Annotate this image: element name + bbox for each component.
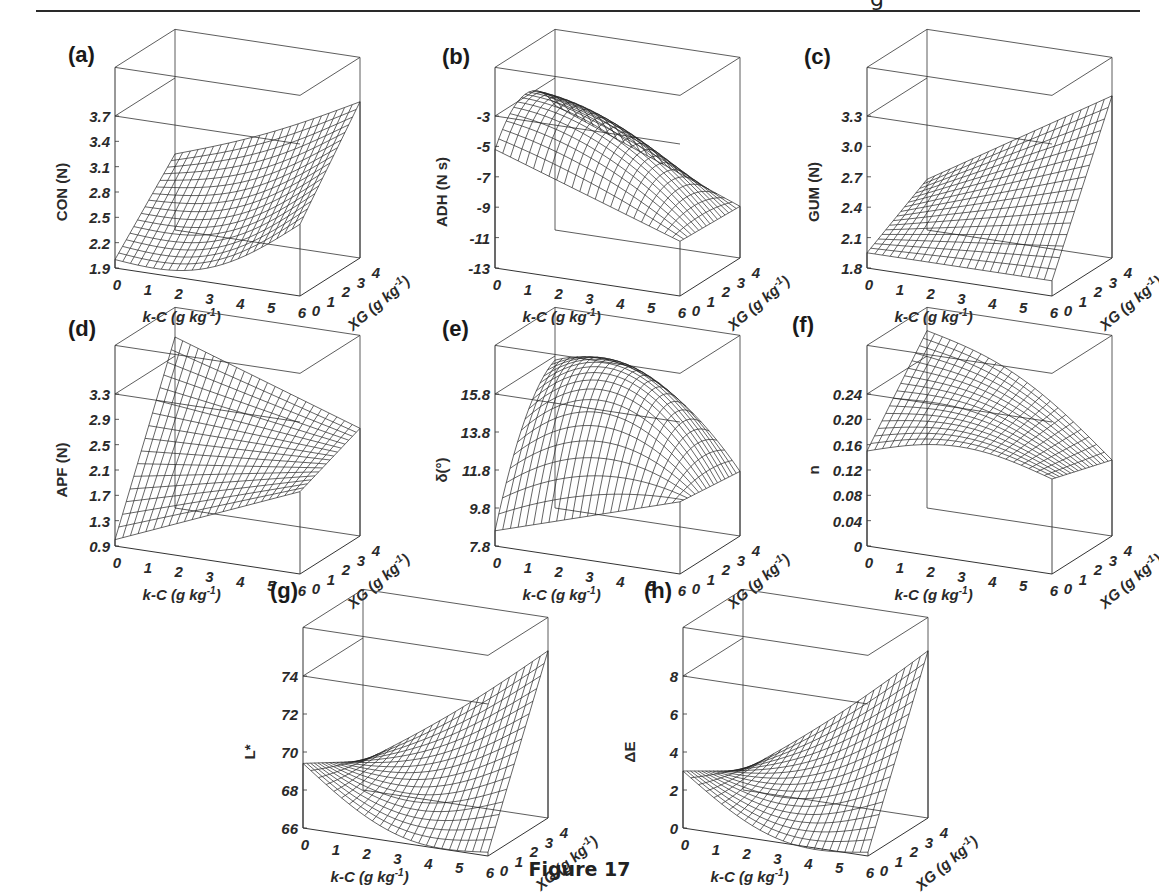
z-tick-label: 3.1 bbox=[89, 159, 110, 176]
x-tick-label: 2 bbox=[173, 285, 183, 302]
surface-plot: 00.040.080.120.160.200.24n0123456k-C (g … bbox=[772, 308, 1152, 598]
chart-panel-h: 02468ΔE0123456k-C (g kg-1)01234XG (g kg-… bbox=[588, 590, 968, 880]
y-tick-label: 4 bbox=[1123, 542, 1133, 559]
z-axis-label: GUM (N) bbox=[805, 162, 822, 222]
z-tick-label: 0.16 bbox=[833, 437, 863, 454]
y-tick-label: 2 bbox=[341, 283, 351, 300]
z-tick-label: 0.08 bbox=[833, 487, 863, 504]
chart-panel-d: 0.91.31.72.12.52.93.3APF (N)0123456k-C (… bbox=[20, 308, 400, 598]
y-tick-label: 3 bbox=[545, 834, 554, 851]
z-tick-label: 0.04 bbox=[833, 513, 863, 530]
z-tick-label: 15.8 bbox=[461, 386, 491, 403]
panel-label: (a) bbox=[68, 42, 95, 68]
z-tick-label: 2.5 bbox=[88, 437, 111, 454]
z-axis-label: APF (N) bbox=[53, 443, 70, 498]
z-tick-label: 3.7 bbox=[89, 108, 111, 125]
header-rule bbox=[36, 10, 1140, 12]
z-tick-label: 0.12 bbox=[833, 462, 863, 479]
y-tick-label: 2 bbox=[721, 283, 731, 300]
chart-panel-b: -13-11-9-7-5-3ADH (N s)0123456k-C (g kg-… bbox=[400, 30, 780, 320]
y-tick-label: 3 bbox=[357, 552, 366, 569]
panel-label: (b) bbox=[442, 44, 470, 70]
y-tick-label: 3 bbox=[1109, 274, 1118, 291]
surface-mesh bbox=[867, 96, 1112, 281]
y-tick-label: 4 bbox=[371, 264, 381, 281]
surface-mesh bbox=[495, 91, 740, 242]
y-tick-label: 4 bbox=[939, 824, 949, 841]
surface-plot: 1.82.12.42.73.03.3GUM (N)0123456k-C (g k… bbox=[772, 30, 1152, 320]
chart-panel-e: 7.89.811.813.815.8δ(°)0123456k-C (g kg-1… bbox=[400, 308, 780, 598]
x-tick-label: 0 bbox=[493, 554, 502, 571]
panel-label: (d) bbox=[68, 316, 96, 342]
x-tick-label: 1 bbox=[144, 281, 152, 298]
y-tick-label: 3 bbox=[1109, 552, 1118, 569]
y-tick-label: 2 bbox=[1093, 561, 1103, 578]
x-tick-label: 2 bbox=[553, 285, 563, 302]
chart-panel-a: 1.92.22.52.83.13.43.7CON (N)0123456k-C (… bbox=[20, 30, 400, 320]
chart-panel-f: 00.040.080.120.160.200.24n0123456k-C (g … bbox=[772, 308, 1152, 598]
x-tick-label: 0 bbox=[113, 554, 122, 571]
z-tick-label: -7 bbox=[477, 169, 491, 186]
x-tick-label: 3 bbox=[957, 568, 966, 585]
x-tick-label: 6 bbox=[1050, 582, 1059, 599]
surface-mesh bbox=[683, 651, 928, 852]
y-tick-label: 1 bbox=[707, 293, 715, 310]
z-tick-label: -13 bbox=[468, 260, 490, 277]
x-tick-label: 2 bbox=[553, 563, 563, 580]
z-tick-label: 3.3 bbox=[841, 108, 863, 125]
x-tick-label: 1 bbox=[896, 281, 904, 298]
z-tick-label: 11.8 bbox=[462, 462, 491, 479]
y-tick-label: 3 bbox=[357, 274, 366, 291]
surface-plot: 7.89.811.813.815.8δ(°)0123456k-C (g kg-1… bbox=[400, 308, 780, 598]
y-tick-label: 2 bbox=[341, 561, 351, 578]
z-tick-label: 68 bbox=[281, 782, 298, 799]
z-tick-label: 1.8 bbox=[841, 260, 863, 277]
z-tick-label: 0.9 bbox=[89, 538, 111, 555]
z-tick-label: 9.8 bbox=[469, 500, 491, 517]
panel-label: (g) bbox=[270, 578, 298, 604]
z-tick-label: 0 bbox=[670, 820, 679, 837]
x-tick-label: 0 bbox=[301, 836, 310, 853]
y-tick-label: 1 bbox=[327, 571, 335, 588]
x-tick-label: 0 bbox=[681, 836, 690, 853]
z-tick-label: 7.8 bbox=[469, 538, 491, 555]
x-tick-label: 1 bbox=[332, 841, 340, 858]
z-tick-label: 72 bbox=[281, 706, 298, 723]
panel-label: (c) bbox=[804, 44, 831, 70]
z-tick-label: 0.20 bbox=[833, 411, 863, 428]
z-tick-label: 13.8 bbox=[461, 424, 491, 441]
z-tick-label: 1.7 bbox=[89, 487, 111, 504]
x-tick-label: 0 bbox=[493, 276, 502, 293]
z-axis-label: L* bbox=[241, 744, 258, 759]
surface-mesh bbox=[495, 357, 740, 531]
y-tick-label: 4 bbox=[751, 542, 761, 559]
z-axis-label: CON (N) bbox=[53, 163, 70, 221]
x-tick-label: 5 bbox=[1019, 577, 1028, 594]
z-tick-label: 2.2 bbox=[88, 235, 111, 252]
x-tick-label: 1 bbox=[712, 841, 720, 858]
x-tick-label: 4 bbox=[987, 573, 997, 590]
x-tick-label: 2 bbox=[925, 285, 935, 302]
z-tick-label: 2.7 bbox=[840, 169, 863, 186]
x-tick-label: 1 bbox=[524, 281, 532, 298]
z-tick-label: 2.1 bbox=[840, 230, 862, 247]
x-tick-label: 0 bbox=[865, 276, 874, 293]
z-tick-label: 66 bbox=[281, 820, 298, 837]
panel-label: (f) bbox=[792, 312, 814, 338]
z-axis-label: ΔE bbox=[621, 742, 638, 763]
y-tick-label: 1 bbox=[707, 571, 715, 588]
z-tick-label: 70 bbox=[281, 744, 298, 761]
x-tick-label: 3 bbox=[205, 568, 214, 585]
surface-plot: 02468ΔE0123456k-C (g kg-1)01234XG (g kg-… bbox=[588, 590, 968, 880]
panel-label: (h) bbox=[644, 578, 672, 604]
z-tick-label: -9 bbox=[477, 199, 491, 216]
x-tick-label: 3 bbox=[205, 290, 214, 307]
y-tick-label: 4 bbox=[559, 824, 569, 841]
y-tick-label: 4 bbox=[371, 542, 381, 559]
x-tick-label: 4 bbox=[615, 573, 625, 590]
chart-panel-c: 1.82.12.42.73.03.3GUM (N)0123456k-C (g k… bbox=[772, 30, 1152, 320]
z-axis-label: n bbox=[805, 465, 822, 474]
z-tick-label: -11 bbox=[469, 230, 490, 247]
y-tick-label: 2 bbox=[721, 561, 731, 578]
y-tick-label: 2 bbox=[1093, 283, 1103, 300]
